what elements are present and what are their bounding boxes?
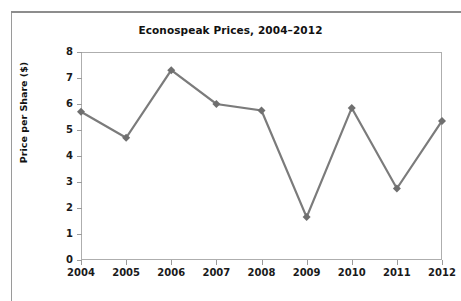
x-axis-tick-label: 2011 <box>373 267 421 278</box>
figure-top-rule <box>11 11 461 13</box>
x-axis-tick <box>216 260 217 265</box>
x-axis-tick-label: 2007 <box>192 267 240 278</box>
y-axis-tick-label: 7 <box>59 72 73 83</box>
x-axis-tick-label: 2005 <box>102 267 150 278</box>
y-axis-tick-label: 5 <box>59 124 73 135</box>
x-axis-tick-label: 2008 <box>238 267 286 278</box>
y-axis-title: Price per Share ($) <box>18 53 29 173</box>
y-axis-tick <box>77 182 82 183</box>
x-axis-tick <box>262 260 263 265</box>
x-axis-tick-label: 2004 <box>57 267 105 278</box>
x-axis-tick-label: 2009 <box>283 267 331 278</box>
y-axis-tick <box>77 208 82 209</box>
x-axis-tick <box>352 260 353 265</box>
plot-area <box>81 52 442 260</box>
x-axis-tick-label: 2012 <box>418 267 461 278</box>
x-axis-tick-label: 2006 <box>147 267 195 278</box>
x-axis-tick <box>397 260 398 265</box>
x-axis-tick <box>307 260 308 265</box>
y-axis-tick <box>77 234 82 235</box>
chart-title: Econospeak Prices, 2004–2012 <box>0 24 461 36</box>
x-axis-tick <box>81 260 82 265</box>
y-axis-tick-label: 4 <box>59 150 73 161</box>
y-axis-tick-label: 2 <box>59 202 73 213</box>
y-axis-tick-label: 6 <box>59 98 73 109</box>
x-axis-tick <box>442 260 443 265</box>
y-axis-tick <box>77 52 82 53</box>
x-axis-tick-label: 2010 <box>328 267 376 278</box>
y-axis-tick-label: 0 <box>59 254 73 265</box>
y-axis-tick-label: 8 <box>59 46 73 57</box>
y-axis-tick-label: 3 <box>59 176 73 187</box>
x-axis-tick <box>171 260 172 265</box>
y-axis-tick <box>77 78 82 79</box>
y-axis-tick <box>77 130 82 131</box>
x-axis-tick <box>126 260 127 265</box>
y-axis-tick <box>77 156 82 157</box>
y-axis-tick-label: 1 <box>59 228 73 239</box>
y-axis-tick <box>77 104 82 105</box>
